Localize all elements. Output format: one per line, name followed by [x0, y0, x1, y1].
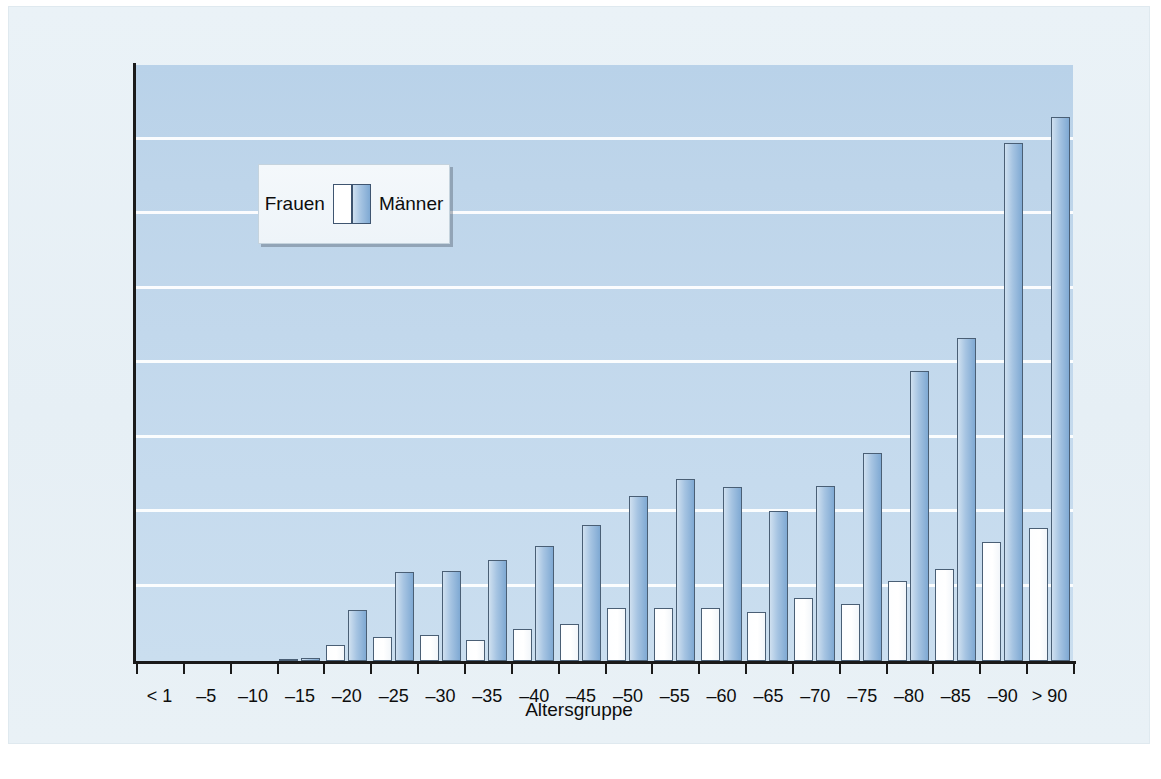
bar-maenner [582, 525, 601, 661]
bar-group [373, 65, 420, 661]
x-tick-mark [932, 663, 934, 674]
bar-group [232, 65, 279, 661]
bar-frauen [747, 612, 766, 661]
bar-frauen [1029, 528, 1048, 661]
plot-area: 01020304050607080 < 1–5–10–15–20–25–30–3… [136, 65, 1073, 661]
bar-group [794, 65, 841, 661]
x-tick-label: > 90 [1015, 686, 1085, 707]
x-tick-mark [230, 663, 232, 674]
bar-group [888, 65, 935, 661]
x-tick-mark [323, 663, 325, 674]
x-axis-line [133, 661, 1076, 664]
x-tick-mark [417, 663, 419, 674]
bar-frauen [701, 608, 720, 661]
x-tick-mark [136, 663, 138, 674]
x-tick-mark [511, 663, 513, 674]
bar-frauen [654, 608, 673, 661]
bar-maenner [535, 546, 554, 661]
x-tick-mark [277, 663, 279, 674]
bar-maenner [816, 486, 835, 661]
bar-maenner [348, 610, 367, 661]
legend-label-frauen: Frauen [265, 193, 325, 215]
bar-group [326, 65, 373, 661]
bar-group [701, 65, 748, 661]
x-tick-mark [1026, 663, 1028, 674]
x-tick-mark [605, 663, 607, 674]
legend-label-maenner: Männer [379, 193, 443, 215]
bar-frauen [373, 637, 392, 661]
bar-frauen [935, 569, 954, 661]
bar-group [747, 65, 794, 661]
bar-group [982, 65, 1029, 661]
x-tick-mark [792, 663, 794, 674]
bar-group [560, 65, 607, 661]
bar-frauen [513, 629, 532, 661]
bar-maenner [1004, 143, 1023, 661]
chart-figure: Suizidrate pro 100 000 Einwohner Altersg… [8, 6, 1150, 744]
bar-group [466, 65, 513, 661]
bar-group [1029, 65, 1076, 661]
x-tick-mark [651, 663, 653, 674]
bar-frauen [794, 598, 813, 661]
bar-group [935, 65, 982, 661]
x-tick-mark [558, 663, 560, 674]
bar-frauen [420, 635, 439, 661]
x-tick-mark [979, 663, 981, 674]
x-tick-mark [370, 663, 372, 674]
legend-swatch-frauen-icon [333, 184, 352, 224]
bar-frauen [560, 624, 579, 661]
bar-frauen [607, 608, 626, 661]
x-tick-mark [1073, 663, 1075, 674]
bar-frauen [982, 542, 1001, 661]
x-tick-mark [745, 663, 747, 674]
bar-group [607, 65, 654, 661]
bar-frauen [888, 581, 907, 661]
bar-maenner [957, 338, 976, 661]
bar-frauen [326, 645, 345, 661]
bar-group [279, 65, 326, 661]
bar-group [138, 65, 185, 661]
x-tick-mark [464, 663, 466, 674]
bar-group [654, 65, 701, 661]
bar-group [841, 65, 888, 661]
bar-maenner [442, 571, 461, 661]
x-tick-mark [183, 663, 185, 674]
bar-maenner [629, 496, 648, 661]
bar-group [513, 65, 560, 661]
y-axis-line [133, 63, 136, 663]
chart-legend: Frauen Männer [258, 164, 450, 244]
bar-maenner [1051, 117, 1070, 661]
x-tick-mark [698, 663, 700, 674]
bar-maenner [769, 511, 788, 661]
bar-frauen [841, 604, 860, 661]
x-tick-mark [839, 663, 841, 674]
bar-maenner [910, 371, 929, 661]
bar-frauen [466, 640, 485, 661]
bar-maenner [488, 560, 507, 661]
bar-maenner [723, 487, 742, 661]
bar-maenner [676, 479, 695, 661]
bar-maenner [863, 453, 882, 661]
bar-group [420, 65, 467, 661]
bar-maenner [395, 572, 414, 661]
bar-group [185, 65, 232, 661]
x-tick-mark [886, 663, 888, 674]
legend-swatch-maenner-icon [352, 184, 371, 224]
